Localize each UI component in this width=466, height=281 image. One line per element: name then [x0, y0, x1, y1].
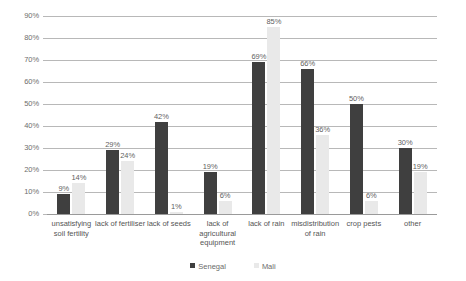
- bar-group: 30%19%: [388, 16, 437, 214]
- bar-group: 42%1%: [145, 16, 194, 214]
- plot-area: 90%80%70%60%50%40%30%20%10%0%9%14%29%24%…: [47, 16, 437, 214]
- y-axis-tick-label: 10%: [0, 187, 39, 196]
- bar-senegal[interactable]: [252, 62, 265, 214]
- bar-mali[interactable]: [414, 172, 427, 214]
- bar-value-label: 1%: [156, 202, 196, 211]
- bar-mali[interactable]: [121, 161, 134, 214]
- y-axis-tick-label: 20%: [0, 165, 39, 174]
- bar-group: 19%6%: [193, 16, 242, 214]
- bar-value-label: 6%: [205, 191, 245, 200]
- y-axis-tick-label: 40%: [0, 121, 39, 130]
- bar-group: 66%36%: [291, 16, 340, 214]
- bar-value-label: 29%: [93, 140, 133, 149]
- y-axis-tick-label: 90%: [0, 11, 39, 20]
- bar-value-label: 42%: [141, 112, 181, 121]
- bar-senegal[interactable]: [57, 194, 70, 214]
- bar-senegal[interactable]: [399, 148, 412, 214]
- bar-value-label: 19%: [400, 162, 440, 171]
- bar-value-label: 24%: [108, 151, 148, 160]
- bar-senegal[interactable]: [301, 69, 314, 214]
- gridline: [47, 214, 437, 215]
- legend-item-mali[interactable]: Mali: [254, 262, 276, 271]
- y-axis-tick-label: 30%: [0, 143, 39, 152]
- legend-label: Senegal: [198, 262, 226, 271]
- y-axis-tick-mark: [43, 214, 47, 215]
- y-axis-tick-label: 60%: [0, 77, 39, 86]
- bar-value-label: 14%: [59, 173, 99, 182]
- bar-group: 69%85%: [242, 16, 291, 214]
- bar-mali[interactable]: [219, 201, 232, 214]
- y-axis-tick-label: 80%: [0, 33, 39, 42]
- bar-value-label: 50%: [336, 94, 376, 103]
- bar-mali[interactable]: [316, 135, 329, 214]
- bar-senegal[interactable]: [155, 122, 168, 214]
- legend-swatch-icon: [190, 263, 195, 268]
- bar-value-label: 36%: [303, 125, 343, 134]
- x-axis-category-label: other: [382, 219, 443, 229]
- bar-group: 50%6%: [340, 16, 389, 214]
- bar-value-label: 6%: [351, 191, 391, 200]
- chart-legend: SenegalMali: [0, 262, 466, 271]
- y-axis-tick-label: 70%: [0, 55, 39, 64]
- legend-label: Mali: [262, 262, 276, 271]
- bar-mali[interactable]: [365, 201, 378, 214]
- bar-group: 29%24%: [96, 16, 145, 214]
- bar-group: 9%14%: [47, 16, 96, 214]
- bar-mali[interactable]: [72, 183, 85, 214]
- bar-value-label: 30%: [385, 138, 425, 147]
- bar-chart: 90%80%70%60%50%40%30%20%10%0%9%14%29%24%…: [0, 0, 466, 281]
- legend-item-senegal[interactable]: Senegal: [190, 262, 226, 271]
- y-axis-tick-label: 50%: [0, 99, 39, 108]
- legend-swatch-icon: [254, 263, 259, 268]
- bar-value-label: 66%: [288, 59, 328, 68]
- bar-value-label: 85%: [254, 17, 294, 26]
- bar-mali[interactable]: [170, 212, 183, 214]
- bar-value-label: 19%: [190, 162, 230, 171]
- y-axis-tick-label: 0%: [0, 209, 39, 218]
- bar-mali[interactable]: [267, 27, 280, 214]
